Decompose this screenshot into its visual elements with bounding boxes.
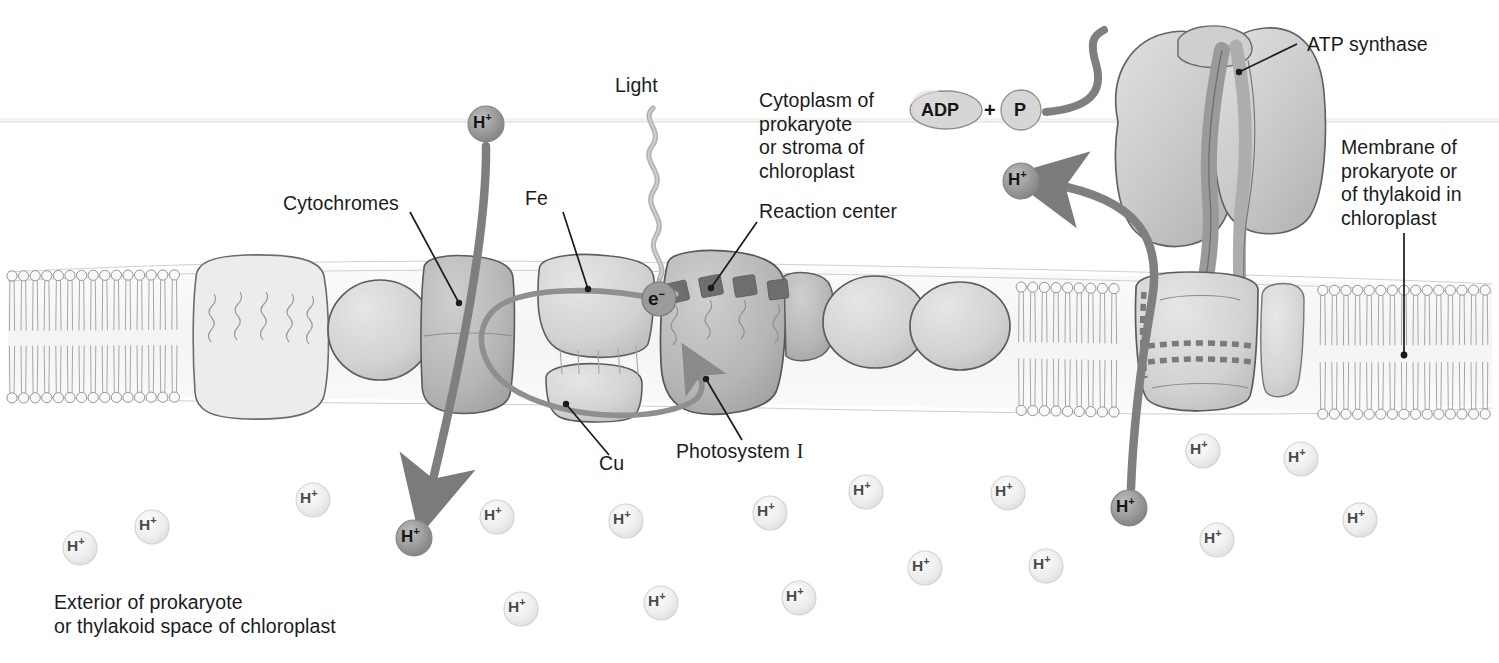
label-light: Light bbox=[615, 74, 658, 98]
label-atp-synthase: ATP synthase bbox=[1307, 33, 1428, 57]
proton-circle bbox=[396, 520, 432, 556]
proton-circle bbox=[644, 586, 678, 620]
membrane-protein-right-round bbox=[910, 282, 1010, 370]
adp-input-arrow bbox=[1046, 30, 1104, 112]
label-photosystem-one: PhotosystemI bbox=[676, 440, 804, 464]
proton-circle bbox=[1111, 490, 1147, 526]
proton-circle bbox=[908, 551, 942, 585]
proton-circle bbox=[1003, 163, 1039, 199]
light-harvesting-complex bbox=[193, 255, 328, 419]
proton-circle bbox=[609, 504, 643, 538]
proton-circle bbox=[1343, 503, 1377, 537]
label-exterior: Exterior of prokaryote or thylakoid spac… bbox=[54, 591, 336, 638]
photosystem-numeral: I bbox=[797, 440, 804, 462]
diagram-artwork bbox=[0, 0, 1499, 663]
proton-circle bbox=[1200, 523, 1234, 557]
proton-circle bbox=[1186, 434, 1220, 468]
diagram-canvas: Light Cytoplasm of prokaryote or stroma … bbox=[0, 0, 1499, 663]
proton-circle bbox=[1029, 549, 1063, 583]
proton-circle bbox=[296, 483, 330, 517]
label-reaction-center: Reaction center bbox=[759, 200, 897, 224]
proton-circle bbox=[63, 531, 97, 565]
membrane-protein-far-right bbox=[1261, 284, 1304, 397]
proton-circle bbox=[468, 106, 504, 142]
label-cytochromes: Cytochromes bbox=[283, 192, 399, 216]
proton-circle bbox=[135, 510, 169, 544]
proton-circle bbox=[849, 475, 883, 509]
photosystem-word: Photosystem bbox=[676, 440, 790, 462]
phosphate-molecule bbox=[1001, 90, 1041, 130]
adp-molecule bbox=[910, 90, 982, 129]
proton-circle bbox=[753, 496, 787, 530]
proton-circle bbox=[991, 476, 1025, 510]
label-cytoplasm: Cytoplasm of prokaryote or stroma of chl… bbox=[759, 89, 874, 183]
electron-marker bbox=[642, 282, 676, 316]
proton-circle bbox=[480, 500, 514, 534]
membrane-protein-left-round bbox=[328, 280, 432, 380]
proton-circle bbox=[1284, 442, 1318, 476]
label-membrane: Membrane of prokaryote or of thylakoid i… bbox=[1341, 136, 1462, 230]
proton-circle bbox=[504, 592, 538, 626]
label-cu: Cu bbox=[599, 452, 624, 476]
label-fe: Fe bbox=[525, 187, 548, 211]
proton-circle bbox=[782, 581, 816, 615]
iron-sulfur-complex bbox=[538, 254, 654, 422]
